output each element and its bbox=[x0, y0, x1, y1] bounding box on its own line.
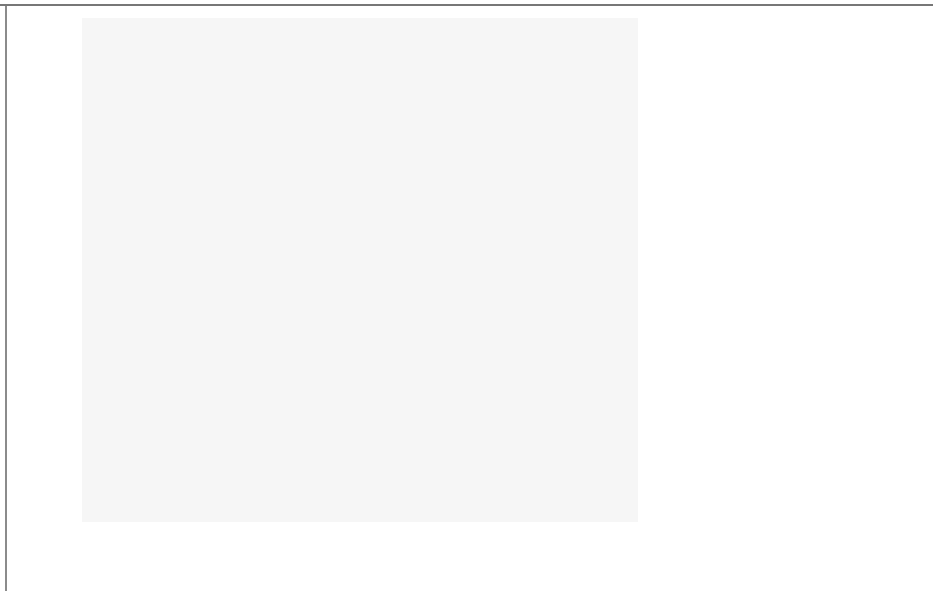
line-series-y1 bbox=[82, 18, 638, 522]
scan-border-left bbox=[5, 6, 7, 591]
plot-panel bbox=[82, 18, 638, 522]
legend bbox=[672, 172, 922, 186]
chart-screenshot bbox=[0, 0, 933, 595]
scan-border-top bbox=[0, 4, 933, 6]
